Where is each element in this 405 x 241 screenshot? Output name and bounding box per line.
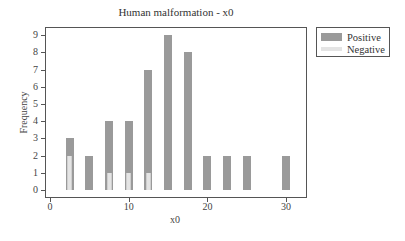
bar-positive-20	[203, 156, 211, 190]
bar-negative-12_5	[146, 173, 151, 190]
bar-negative-2_5	[67, 156, 72, 190]
y-tick	[41, 190, 45, 191]
chart-title: Human malformation - x0	[45, 6, 307, 18]
y-tick	[41, 35, 45, 36]
y-tick	[41, 52, 45, 53]
bar-negative-10	[126, 173, 131, 190]
legend-label-positive: Positive	[347, 32, 381, 43]
x-tick-label: 30	[271, 201, 301, 212]
legend-swatch-negative	[321, 47, 342, 51]
y-tick-label: 4	[24, 116, 38, 126]
legend-item-negative: Negative	[321, 43, 385, 55]
bar-positive-17_5	[184, 52, 192, 190]
y-tick-label: 3	[24, 133, 38, 143]
y-tick-label: 6	[24, 82, 38, 92]
bar-positive-15	[164, 35, 172, 190]
y-tick-label: 2	[24, 151, 38, 161]
y-tick-label: 1	[24, 168, 38, 178]
bar-positive-5	[85, 156, 93, 190]
plot-area	[45, 27, 307, 198]
legend-label-negative: Negative	[347, 44, 385, 55]
bar-negative-7_5	[107, 173, 112, 190]
legend-swatch-positive	[321, 33, 342, 41]
y-tick	[41, 104, 45, 105]
y-tick-label: 9	[24, 30, 38, 40]
y-tick	[41, 70, 45, 71]
y-tick-label: 5	[24, 99, 38, 109]
y-tick	[41, 156, 45, 157]
x-axis-label: x0	[160, 214, 190, 225]
y-tick	[41, 87, 45, 88]
bar-positive-25	[243, 156, 251, 190]
x-tick-label: 0	[35, 201, 65, 212]
bar-positive-30	[282, 156, 290, 190]
y-tick-label: 0	[24, 185, 38, 195]
x-tick-label: 20	[192, 201, 222, 212]
bar-positive-22_5	[223, 156, 231, 190]
y-tick	[41, 121, 45, 122]
y-tick	[41, 138, 45, 139]
legend-item-positive: Positive	[321, 31, 381, 43]
y-tick	[41, 173, 45, 174]
y-tick-label: 7	[24, 65, 38, 75]
legend: Positive Negative	[316, 27, 390, 57]
y-tick-label: 8	[24, 47, 38, 57]
x-tick-label: 10	[114, 201, 144, 212]
